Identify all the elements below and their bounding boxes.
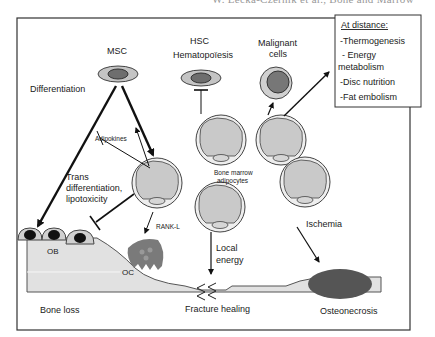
bma-label: Bone marrow [214,169,253,176]
hsc-cell [181,70,221,86]
distance-item: -Thermogenesis [340,36,406,46]
msc-cell [98,66,138,82]
trans-label: Trans [66,172,89,182]
adipocyte-cell [195,182,245,232]
distance-item: -Disc nutrition [340,77,395,87]
adipocyte-cell [196,115,246,165]
osteonecrosis-lesion [308,269,372,299]
distance-item: - Energy [342,50,377,60]
osteonecrosis-label: Osteonecrosis [320,306,378,316]
oc-label: OC [122,268,134,277]
adipokines-label: Adipokines [95,135,128,143]
fracture-healing-label: Fracture healing [185,304,250,314]
adipocyte-cell [132,158,182,208]
hsc-label: HSC [190,36,210,46]
rankl-label: RANK-L [156,223,180,230]
ob-label: OB [47,247,59,256]
malignant-label-2: cells [269,49,288,59]
distance-item: -Fat embolism [340,92,397,102]
bma-label-2: adipocytes [217,177,249,185]
malignant-label: Malignant [258,38,298,48]
local-energy-label-2: energy [216,255,244,265]
distance-item-cont: metabolism [338,62,384,72]
trans-label-3: lipotoxicity [66,194,108,204]
malignant-cell [260,67,292,99]
bone-loss-label: Bone loss [40,305,80,315]
msc-label: MSC [107,46,128,56]
ischemia-label: Ischemia [306,219,342,229]
differentiation-label: Differentiation [30,84,85,94]
trans-label-2: differentiation, [66,183,122,193]
hematopoiesis-label: Hematopoïesis [173,50,234,60]
adipocyte-cell [280,157,330,207]
local-energy-label: Local [216,243,238,253]
bone-marrow-adipocyte-diagram: At distance: -Thermogenesis - Energy met… [0,0,435,337]
at-distance-title: At distance: [341,20,388,30]
